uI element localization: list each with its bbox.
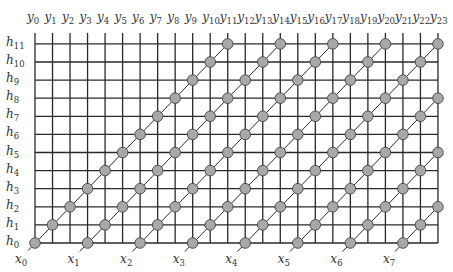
node: [170, 93, 181, 104]
input-label-x0: x0: [15, 252, 27, 268]
column-label-y10: y10: [201, 10, 220, 26]
node: [240, 75, 251, 86]
node: [363, 111, 374, 122]
node: [187, 238, 198, 249]
node: [345, 183, 356, 194]
node: [135, 129, 146, 140]
column-label-y14: y14: [271, 10, 290, 26]
column-label-y15: y15: [289, 10, 308, 26]
node: [152, 111, 163, 122]
node: [82, 183, 93, 194]
input-label-x7: x7: [383, 252, 395, 268]
node: [380, 93, 391, 104]
row-label-h11: h11: [6, 35, 25, 51]
grid-lines: [35, 33, 438, 243]
row-label-h2: h2: [6, 198, 19, 214]
diagonal-x3: [185, 44, 386, 252]
column-label-y12: y12: [236, 10, 255, 26]
node: [257, 111, 268, 122]
node: [222, 39, 233, 50]
input-label-x6: x6: [330, 252, 342, 268]
column-label-y1: y1: [44, 10, 57, 26]
node: [222, 147, 233, 158]
node: [398, 183, 409, 194]
diagonal-lines: [28, 44, 438, 252]
node: [187, 183, 198, 194]
node: [293, 238, 304, 249]
node: [170, 202, 181, 213]
input-label-x2: x2: [120, 252, 132, 268]
node: [100, 165, 111, 176]
node: [47, 220, 58, 231]
row-label-h5: h5: [6, 144, 19, 160]
node: [293, 183, 304, 194]
node: [398, 129, 409, 140]
node: [187, 129, 198, 140]
input-label-x5: x5: [278, 252, 290, 268]
node: [415, 220, 426, 231]
node: [310, 57, 321, 68]
node: [328, 93, 339, 104]
node: [222, 93, 233, 104]
column-label-y4: y4: [96, 10, 109, 26]
column-label-y22: y22: [411, 10, 430, 26]
column-label-y23: y23: [429, 10, 448, 26]
input-label-x3: x3: [173, 252, 185, 268]
column-label-y8: y8: [166, 10, 179, 26]
systolic-grid-diagram: y0y1y2y3y4y5y6y7y8y9y10y11y12y13y14y15y1…: [0, 0, 453, 272]
row-label-h6: h6: [6, 125, 19, 141]
node: [328, 147, 339, 158]
row-label-h7: h7: [6, 107, 19, 123]
column-label-y17: y17: [324, 10, 343, 26]
node: [135, 183, 146, 194]
column-label-y18: y18: [341, 10, 360, 26]
node: [345, 75, 356, 86]
node: [257, 220, 268, 231]
node: [415, 111, 426, 122]
node: [363, 57, 374, 68]
column-label-y6: y6: [131, 10, 144, 26]
node: [275, 147, 286, 158]
node: [257, 165, 268, 176]
row-label-h9: h9: [6, 71, 19, 87]
node: [328, 202, 339, 213]
node: [205, 220, 216, 231]
input-label-x1: x1: [68, 252, 80, 268]
node: [152, 165, 163, 176]
node: [310, 111, 321, 122]
row-label-h8: h8: [6, 89, 19, 105]
node: [398, 238, 409, 249]
diagonal-x0: [28, 44, 228, 251]
node: [117, 147, 128, 158]
row-label-h0: h0: [6, 234, 19, 250]
column-label-y7: y7: [149, 10, 162, 26]
node: [222, 202, 233, 213]
node: [363, 220, 374, 231]
column-label-y16: y16: [306, 10, 325, 26]
node: [135, 238, 146, 249]
row-label-h4: h4: [6, 162, 19, 178]
column-label-y0: y0: [26, 10, 39, 26]
node: [240, 129, 251, 140]
node: [82, 238, 93, 249]
node: [257, 57, 268, 68]
diagonal-x2: [132, 44, 333, 252]
column-label-y19: y19: [359, 10, 378, 26]
node: [415, 165, 426, 176]
diagonal-x1: [80, 44, 281, 252]
column-label-y5: y5: [114, 10, 127, 26]
node: [415, 57, 426, 68]
node: [345, 238, 356, 249]
row-label-h3: h3: [6, 180, 19, 196]
node: [240, 238, 251, 249]
node: [380, 147, 391, 158]
node: [170, 147, 181, 158]
column-label-y13: y13: [254, 10, 273, 26]
node: [380, 202, 391, 213]
node: [380, 39, 391, 50]
node: [433, 93, 444, 104]
node: [310, 165, 321, 176]
node: [310, 220, 321, 231]
column-label-y21: y21: [394, 10, 413, 26]
node: [100, 220, 111, 231]
